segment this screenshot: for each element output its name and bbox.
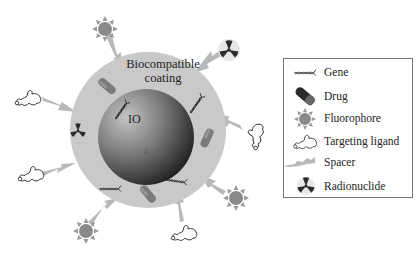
- coating-label: Biocompatible coating: [108, 57, 218, 85]
- core-label: IO: [128, 112, 141, 127]
- targeting-ligand-icon: [18, 167, 44, 182]
- fluorophore-icon: [73, 218, 99, 244]
- legend-label: Fluorophore: [324, 112, 381, 124]
- targeting-ligand-icon: [15, 91, 41, 106]
- targeting-ligand-icon: [243, 121, 266, 150]
- gene-icon: [288, 62, 322, 84]
- legend-label: Gene: [324, 66, 348, 78]
- coating-label-line1: Biocompatible: [108, 57, 218, 71]
- targeting-ligand-icon: [171, 226, 197, 241]
- radionuclide-icon: [288, 174, 322, 198]
- legend-item-radionuclide: Radionuclide: [284, 174, 414, 196]
- legend-item-fluorophore: Fluorophore: [284, 107, 414, 129]
- legend-label: Radionuclide: [324, 180, 385, 192]
- legend-item-spacer: Spacer: [284, 152, 414, 174]
- fluorophore-icon: [223, 185, 249, 211]
- fluorophore-icon: [92, 16, 118, 42]
- drug-icon: [288, 84, 322, 108]
- fluorophore-icon: [288, 107, 322, 131]
- targeting-ligand-icon: [288, 131, 322, 153]
- legend: Gene Drug Fluorophore Targeting ligand S…: [283, 58, 413, 198]
- legend-item-targeting-ligand: Targeting ligand: [284, 131, 414, 153]
- legend-item-gene: Gene: [284, 62, 414, 84]
- coating-label-line2: coating: [108, 71, 218, 85]
- radionuclide-icon: [218, 39, 240, 61]
- legend-label: Drug: [324, 90, 348, 102]
- legend-label: Targeting ligand: [324, 135, 399, 147]
- iron-oxide-core: [98, 89, 194, 185]
- spacer-icon: [281, 152, 319, 174]
- legend-item-drug: Drug: [284, 84, 414, 106]
- legend-label: Spacer: [324, 156, 355, 168]
